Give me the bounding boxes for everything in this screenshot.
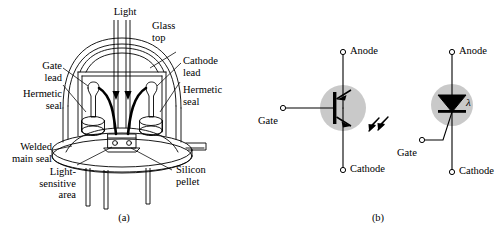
left-anode-terminal <box>340 49 345 54</box>
label-left-cathode: Cathode <box>350 163 385 175</box>
label-left-anode: Anode <box>350 45 378 57</box>
right-cathode-terminal <box>449 169 454 174</box>
left-light-arrows <box>369 117 389 131</box>
panel-b-symbols <box>0 0 504 241</box>
left-gate-terminal <box>280 105 285 110</box>
right-gate-terminal <box>419 137 424 142</box>
symbol-left-group <box>280 49 388 172</box>
symbol-right-group <box>419 49 473 174</box>
caption-panel-b: (b) <box>358 212 398 223</box>
left-base-bar <box>333 92 336 124</box>
label-right-wavelength: λ <box>466 96 471 108</box>
right-cathode-bar <box>438 110 466 113</box>
label-right-gate: Gate <box>397 147 417 159</box>
label-right-cathode: Cathode <box>459 165 494 177</box>
label-right-anode: Anode <box>459 45 487 57</box>
figure-lascr: Gate lead Hermetic seal Cathode lead Her… <box>0 0 504 241</box>
left-cathode-terminal <box>340 167 345 172</box>
label-left-gate: Gate <box>258 115 278 127</box>
right-anode-terminal <box>449 49 454 54</box>
